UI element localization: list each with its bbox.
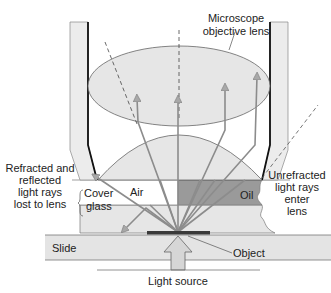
label-light-source: Light source — [148, 275, 208, 287]
objective-housing-left — [70, 22, 97, 180]
objective-housing-right — [262, 22, 288, 180]
label-oil-visible: Oil — [240, 189, 253, 201]
label-lost-4: lost to lens — [14, 198, 67, 210]
label-lost-2: reflected — [19, 174, 61, 186]
label-cover-2: glass — [86, 200, 112, 212]
label-air: Air — [130, 186, 144, 198]
label-unrefracted-2: light rays — [275, 181, 320, 193]
label-object: Object — [233, 247, 265, 259]
label-unrefracted-4: lens — [287, 205, 308, 217]
label-lost-3: light rays — [18, 186, 63, 198]
oil-immersion-diagram: Microscope objective lens Air Oil Oil Re… — [0, 0, 331, 293]
label-unrefracted-3: enter — [284, 193, 309, 205]
object-specimen — [147, 231, 210, 235]
label-lost-1: Refracted and — [5, 162, 74, 174]
label-cover-1: Cover — [84, 187, 114, 199]
front-lens-dome — [98, 135, 262, 180]
label-slide: Slide — [52, 242, 76, 254]
label-unrefracted-1: Unrefracted — [268, 169, 325, 181]
label-objective-2: objective lens — [203, 25, 270, 37]
label-objective-1: Microscope — [208, 12, 264, 24]
